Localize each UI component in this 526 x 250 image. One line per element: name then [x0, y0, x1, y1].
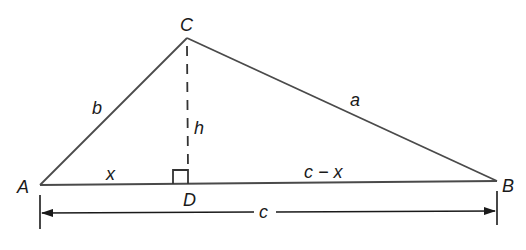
- side-label-a: a: [350, 90, 360, 110]
- dimension-line-right: [276, 211, 495, 212]
- dimension-label-c: c: [259, 202, 268, 222]
- segment-label-x: x: [105, 164, 116, 184]
- altitude-h: [187, 46, 188, 170]
- vertex-label-b: B: [502, 176, 514, 196]
- altitude-label-h: h: [194, 118, 204, 138]
- triangle-diagram: C A B D b a h x c − x c: [0, 0, 526, 250]
- segment-label-c-minus-x: c − x: [304, 162, 344, 182]
- side-a: [187, 38, 497, 181]
- right-angle-marker: [173, 170, 188, 184]
- side-label-b: b: [92, 98, 102, 118]
- dimension-line-left: [42, 212, 254, 213]
- vertex-label-c: C: [180, 15, 194, 35]
- vertex-label-d: D: [183, 190, 196, 210]
- side-b: [40, 38, 187, 185]
- vertex-label-a: A: [16, 177, 29, 197]
